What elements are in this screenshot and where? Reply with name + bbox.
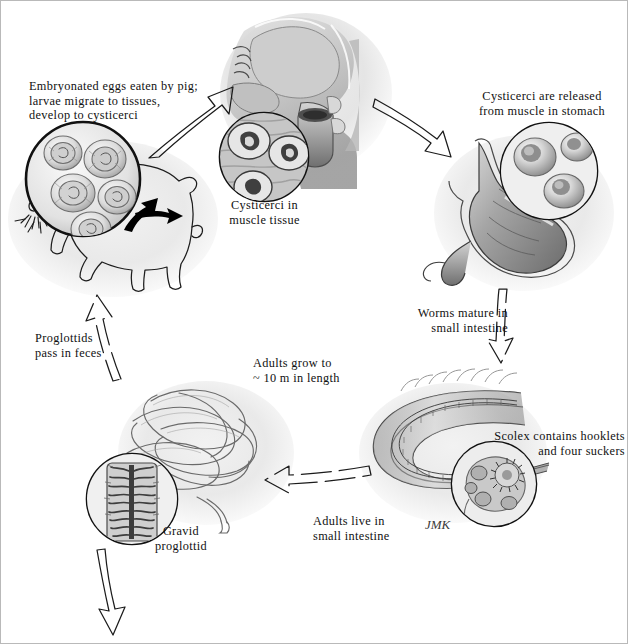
label-adults-live: Adults live in small intestine — [313, 514, 433, 543]
life-cycle-figure: JMK Embryonated eggs eaten by pig; larva… — [0, 0, 628, 644]
label-scolex: Scolex contains hooklets and four sucker… — [453, 429, 625, 458]
cysticerci-stomach-inset — [501, 123, 597, 219]
label-adults-grow: Adults grow to ~ 10 m in length — [253, 356, 381, 385]
label-eggs-eaten: Embryonated eggs eaten by pig; larvae mi… — [29, 79, 244, 123]
pig-host-panel — [8, 122, 218, 297]
arrow-proglottid-out — [97, 549, 125, 635]
label-cysticerci-released: Cysticerci are released from muscle in s… — [458, 89, 626, 118]
adult-tapeworm-panel — [87, 381, 294, 544]
label-proglottids-feces: Proglottids pass in feces — [35, 331, 150, 360]
cysticerci-muscle-inset — [220, 113, 309, 203]
stomach-panel — [423, 123, 614, 291]
label-gravid-proglottid: Gravid proglottid — [136, 524, 226, 553]
label-worms-mature: Worms mature in small intestine — [383, 306, 508, 335]
label-cysticerci-muscle: Cysticerci in muscle tissue — [197, 198, 332, 227]
